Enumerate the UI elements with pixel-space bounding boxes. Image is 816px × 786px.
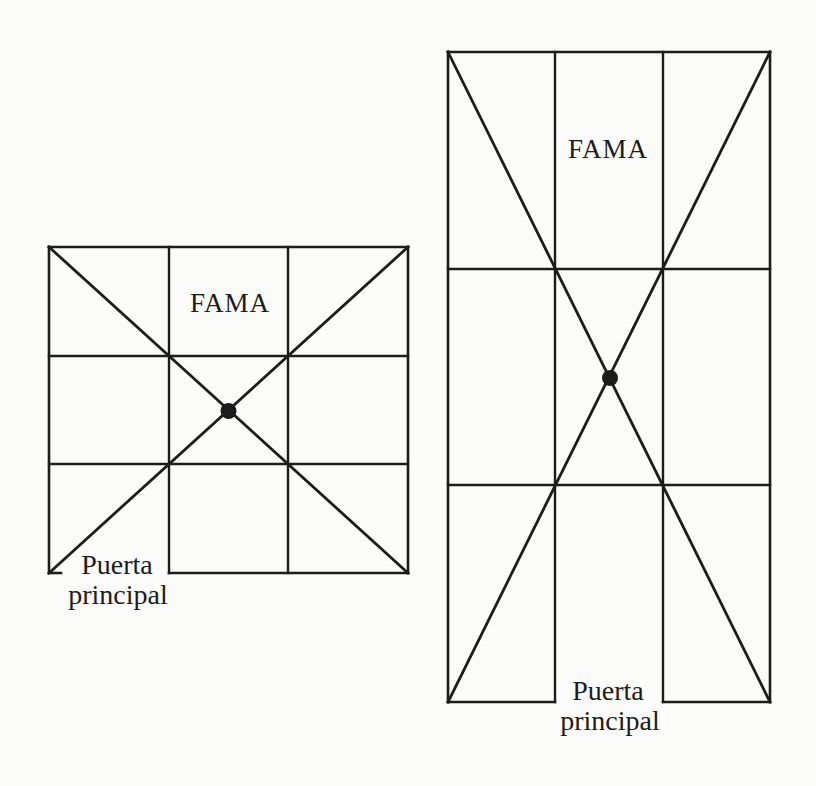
small-floorplan: FAMA Puerta principal <box>49 247 408 610</box>
large-floorplan: FAMA Puerta principal <box>448 52 770 736</box>
center-dot-icon <box>221 403 237 419</box>
floorplans-canvas: FAMA Puerta principal <box>0 0 816 786</box>
sector-label-fama: FAMA <box>190 288 270 318</box>
page: FAMA Puerta principal <box>0 0 816 786</box>
door-label-line2: principal <box>68 579 168 610</box>
door-label-line1: Puerta <box>572 675 644 706</box>
center-dot-icon <box>602 370 618 386</box>
sector-label-fama: FAMA <box>568 134 648 164</box>
door-label-line1: Puerta <box>81 549 153 580</box>
door-label-line2: principal <box>560 705 660 736</box>
